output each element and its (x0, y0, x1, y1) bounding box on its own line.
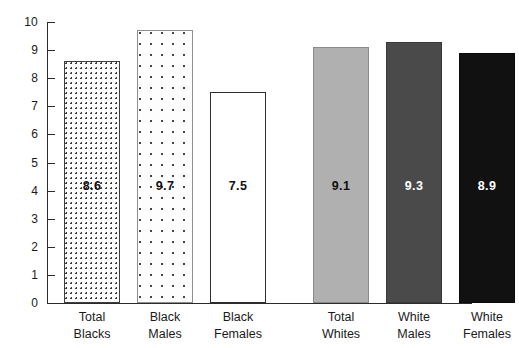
y-axis-tick-label: 2 (0, 241, 38, 253)
bar: 8.9 (459, 53, 515, 303)
category-label-line: Females (451, 326, 519, 343)
y-axis-tick-label: 5 (0, 157, 38, 169)
y-axis-tick-label: 0 (0, 297, 38, 309)
x-axis-category-label: WhiteFemales (451, 309, 519, 342)
x-axis-category-label: BlackMales (129, 309, 201, 342)
bar-value-label: 9.7 (138, 180, 192, 193)
bar: 9.1 (313, 47, 369, 303)
y-axis-tick-label: 7 (0, 100, 38, 112)
bar-value-label: 8.9 (460, 180, 514, 193)
y-axis-tick-label: 6 (0, 128, 38, 140)
category-label-line: Males (378, 326, 450, 343)
category-label-line: Males (129, 326, 201, 343)
y-axis-tick-label: 8 (0, 72, 38, 84)
category-label-line: Total (56, 309, 128, 326)
category-label-line: Total (305, 309, 377, 326)
bar: 8.6 (64, 61, 120, 303)
x-axis-category-label: BlackFemales (202, 309, 274, 342)
x-axis-category-label: TotalBlacks (56, 309, 128, 342)
x-axis-category-label: TotalWhites (305, 309, 377, 342)
bar-value-label: 9.3 (387, 180, 441, 193)
y-axis-tick-label: 9 (0, 44, 38, 56)
bar-value-label: 9.1 (314, 180, 368, 193)
x-axis-category-label: WhiteMales (378, 309, 450, 342)
category-label-line: Black (202, 309, 274, 326)
x-axis-line (47, 303, 472, 304)
category-label-line: Whites (305, 326, 377, 343)
y-axis-tick-label: 1 (0, 269, 38, 281)
bar: 7.5 (210, 92, 266, 303)
y-axis-tick-label: 4 (0, 185, 38, 197)
category-label-line: White (378, 309, 450, 326)
category-label-line: Black (129, 309, 201, 326)
category-label-line: Blacks (56, 326, 128, 343)
y-axis-tick-label: 3 (0, 213, 38, 225)
category-label-line: White (451, 309, 519, 326)
bar: 9.3 (386, 42, 442, 303)
category-label-line: Females (202, 326, 274, 343)
bar-value-label: 8.6 (65, 180, 119, 193)
bar: 9.7 (137, 30, 193, 303)
bar-value-label: 7.5 (211, 180, 265, 193)
y-axis-tick-label: 10 (0, 16, 38, 28)
